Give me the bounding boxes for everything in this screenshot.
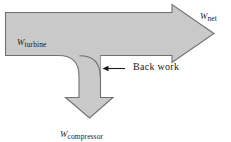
back-work-leader-arrowhead-icon — [103, 66, 109, 72]
label-w-net: Wnet — [200, 6, 217, 22]
w-compressor-symbol: W — [60, 129, 68, 139]
label-back-work: Back work — [133, 62, 179, 72]
arrow-graphics — [0, 0, 231, 142]
w-net-symbol: W — [200, 11, 208, 21]
label-w-turbine: Wturbine — [17, 32, 46, 48]
w-net-subscript: net — [208, 14, 217, 23]
back-work-diagram: Wnet Wturbine Wcompressor Back work — [0, 0, 231, 142]
label-w-compressor: Wcompressor — [60, 124, 103, 140]
w-turbine-symbol: W — [17, 37, 25, 47]
w-turbine-subscript: turbine — [25, 40, 47, 49]
w-compressor-subscript: compressor — [68, 132, 104, 141]
combined-block-arrow-shape — [6, 5, 215, 119]
